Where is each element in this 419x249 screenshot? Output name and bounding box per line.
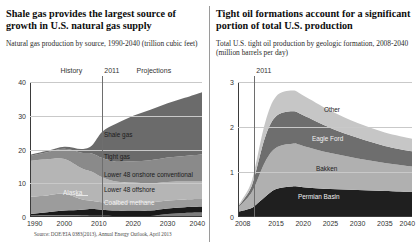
y-axis-tick-label: 0 xyxy=(230,214,234,221)
gridline xyxy=(30,183,202,184)
left-chart: 0102030401990200020102020203020402011His… xyxy=(4,74,209,224)
panel-divider xyxy=(209,6,210,242)
series-label: Shale gas xyxy=(104,131,132,138)
y-axis-tick-label: 10 xyxy=(18,180,26,187)
x-axis-tick-label: 2040 xyxy=(400,220,416,227)
right-y-axis xyxy=(238,82,239,217)
panel-tight-oil: Tight oil formations account for a signi… xyxy=(214,0,419,249)
series-label: Coalbed methane xyxy=(104,199,154,206)
x-axis-tick-label: 2035 xyxy=(377,220,393,227)
projection-divider-line xyxy=(102,76,103,217)
right-headline: Tight oil formations account for a signi… xyxy=(214,0,419,33)
series-label: Other xyxy=(324,106,340,113)
series-label: Eagle Ford xyxy=(312,135,343,142)
y-axis-tick-label: 1 xyxy=(230,169,234,176)
x-axis-tick-label: 2040 xyxy=(190,220,206,227)
y-axis-tick-label: 30 xyxy=(18,112,26,119)
right-plot-area: 012320082015202020252030203520402011Othe… xyxy=(238,82,412,217)
y-axis-tick-label: 2 xyxy=(230,124,234,131)
era-label: History xyxy=(60,67,82,74)
slide-root: Shale gas provides the largest source of… xyxy=(0,0,419,249)
y-axis-tick-label: 0 xyxy=(22,214,26,221)
left-x-axis xyxy=(30,216,202,217)
series-label: Lower 48 offshore xyxy=(104,186,155,193)
y-axis-tick-label: 3 xyxy=(230,79,234,86)
y-axis-tick-label: 20 xyxy=(18,146,26,153)
right-subhead: Total U.S. tight oil production by geolo… xyxy=(214,33,419,57)
right-x-axis xyxy=(238,216,412,217)
series-label: Bakken xyxy=(316,165,337,172)
gridline xyxy=(238,127,412,128)
x-axis-tick-label: 1990 xyxy=(27,220,43,227)
x-axis-tick-label: 2030 xyxy=(160,220,176,227)
panel-natural-gas: Shale gas provides the largest source of… xyxy=(4,0,209,249)
era-label: Projections xyxy=(137,67,172,74)
gridline xyxy=(30,150,202,151)
gridline xyxy=(30,116,202,117)
x-axis-tick-label: 2000 xyxy=(57,220,73,227)
x-axis-tick-label: 2015 xyxy=(268,220,284,227)
x-axis-tick-label: 2010 xyxy=(91,220,107,227)
x-axis-tick-label: 2020 xyxy=(125,220,141,227)
projection-divider-line xyxy=(254,76,255,217)
right-chart: 012320082015202020252030203520402011Othe… xyxy=(214,74,419,224)
series-label: Permian Basin xyxy=(298,193,340,200)
left-plot-area: 0102030401990200020102020203020402011His… xyxy=(30,82,202,217)
left-subhead: Natural gas production by source, 1990-2… xyxy=(4,33,209,48)
gridline xyxy=(238,172,412,173)
divider-year-label: 2011 xyxy=(104,67,119,74)
divider-year-label: 2011 xyxy=(256,67,271,74)
leader-line xyxy=(76,195,88,196)
series-label: Tight gas xyxy=(104,153,130,160)
x-axis-tick-label: 2008 xyxy=(235,220,251,227)
left-headline: Shale gas provides the largest source of… xyxy=(4,0,209,33)
gridline xyxy=(238,82,412,83)
x-axis-tick-label: 2030 xyxy=(350,220,366,227)
series-label: Lower 48 onshore conventional xyxy=(104,171,193,178)
gridline xyxy=(30,82,202,83)
source-note: Source: DOE/EIA 0383(2013), Annual Energ… xyxy=(34,231,172,237)
x-axis-tick-label: 2025 xyxy=(323,220,339,227)
x-axis-tick-label: 2020 xyxy=(295,220,311,227)
y-axis-tick-label: 40 xyxy=(18,79,26,86)
